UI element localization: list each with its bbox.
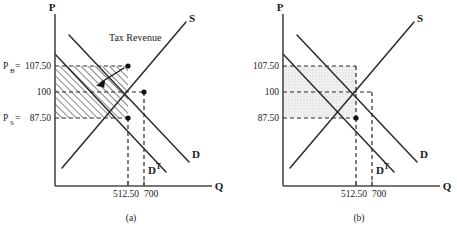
price-label-87-b: 87.50 — [258, 113, 280, 123]
tax-incidence-figure: P Q Tax Revenue S D D T P B = 107.50 100… — [0, 0, 457, 231]
equilibrium-dot-sellers-a — [125, 115, 130, 120]
demand-after-tax-label-sup-a: T — [156, 162, 161, 171]
panel-caption-b: (b) — [353, 213, 364, 224]
demand-after-tax-label-sup-b: T — [384, 162, 389, 171]
quantity-label-512-a: 512.50 — [113, 189, 139, 199]
price-label-ps-prefix-a: P — [3, 113, 8, 123]
price-label-ps-equals-a: = — [15, 113, 20, 123]
price-label-ps-subscript-a: S — [10, 119, 14, 127]
x-axis-label-b: Q — [443, 180, 452, 192]
quantity-label-700-b: 700 — [372, 189, 387, 199]
demand-after-tax-label-b: D T — [376, 162, 389, 176]
demand-after-tax-label-a: D T — [148, 162, 161, 176]
y-axis-label-b: P — [277, 1, 284, 13]
demand-curve-label-b: D — [420, 148, 428, 160]
y-axis-label-a: P — [49, 1, 56, 13]
price-label-ps-a: P S = 87.50 — [3, 113, 51, 127]
price-label-pb-prefix-a: P — [3, 61, 8, 71]
x-axis-label-a: Q — [215, 180, 224, 192]
panel-caption-a: (a) — [126, 213, 137, 224]
demand-after-tax-label-text-a: D — [148, 164, 156, 176]
demand-curve-label-a: D — [192, 148, 200, 160]
equilibrium-dot-sellers-b — [353, 115, 358, 120]
price-label-107-b: 107.50 — [253, 61, 279, 71]
figure-svg: P Q Tax Revenue S D D T P B = 107.50 100… — [0, 0, 457, 231]
quantity-label-512-b: 512.50 — [341, 189, 367, 199]
panel-b: P Q S D D T 107.50 100 87.50 512.50 700 … — [253, 1, 452, 224]
price-label-pb-equals-a: = — [15, 61, 20, 71]
equilibrium-dot-notax-a — [141, 89, 146, 94]
price-label-p100-a: 100 — [37, 87, 52, 97]
demand-after-tax-label-text-b: D — [376, 164, 384, 176]
supply-curve-label-b: S — [417, 12, 423, 24]
tax-revenue-annotation-a: Tax Revenue — [109, 32, 162, 43]
price-label-ps-value-a: 87.50 — [30, 113, 52, 123]
supply-curve-label-a: S — [189, 12, 195, 24]
equilibrium-dot-buyers-a — [125, 63, 130, 68]
panel-a: P Q Tax Revenue S D D T P B = 107.50 100… — [3, 1, 224, 224]
quantity-label-700-a: 700 — [144, 189, 159, 199]
price-label-pb-a: P B = 107.50 — [3, 61, 51, 75]
price-label-pb-value-a: 107.50 — [25, 61, 51, 71]
price-label-100-b: 100 — [265, 87, 280, 97]
